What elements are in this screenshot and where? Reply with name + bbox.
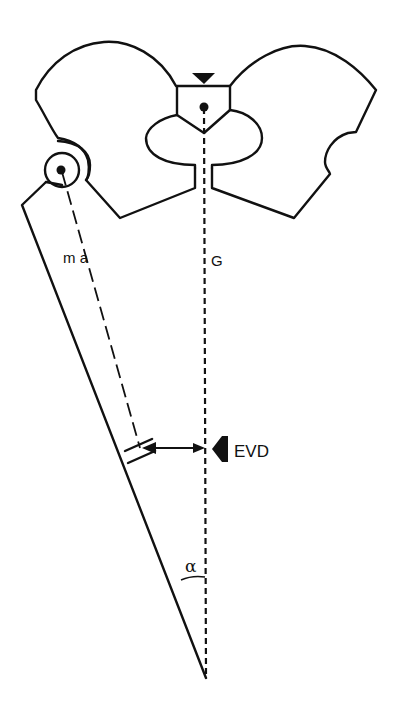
- angle-alpha-label: α: [185, 556, 197, 576]
- femoral-head-center-dot: [57, 166, 66, 175]
- sacrum-center-dot: [200, 103, 209, 112]
- arrowhead-right-icon: [193, 443, 205, 453]
- force-arrow-icon: [212, 436, 228, 462]
- angle-arc: [181, 576, 205, 580]
- knee-tick-lower: [128, 451, 155, 463]
- femur-neck: [46, 182, 62, 185]
- mechanical-axis-label: m a: [63, 249, 89, 266]
- gravity-line: [204, 108, 206, 676]
- force-label: EVD: [234, 442, 269, 461]
- gravity-line-label: G: [211, 252, 223, 269]
- right-ilium-outline: [212, 46, 376, 218]
- pelvis-femur-diagram: EVD m a G α: [0, 0, 402, 704]
- femur-shaft-outline: [22, 182, 206, 678]
- left-ilium-outline: [36, 42, 195, 218]
- sacrum-marker-triangle-icon: [192, 73, 215, 84]
